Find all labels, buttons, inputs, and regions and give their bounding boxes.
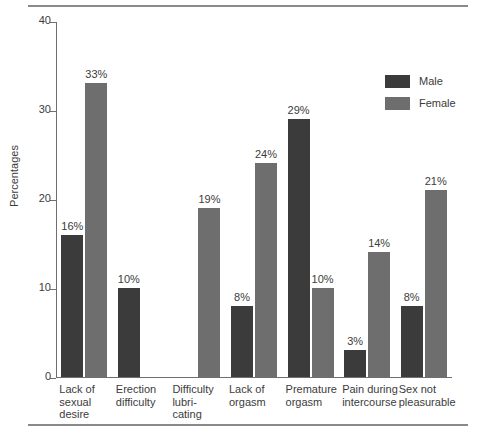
category-label: Pain during intercourse: [342, 383, 405, 408]
bar-male: 16%: [61, 235, 83, 377]
bar-value-label: 21%: [425, 175, 447, 187]
category-label: Premature orgasm: [286, 383, 349, 408]
category-label: Lack of orgasm: [229, 383, 292, 408]
bar-value-label: 24%: [255, 148, 277, 160]
bar-value-label: 33%: [85, 68, 107, 80]
category-label: Lack of sexual desire: [59, 383, 122, 421]
bar-male: 3%: [344, 350, 366, 377]
category-label-row: Lack of sexual desireErection difficulty…: [56, 383, 452, 425]
bar-value-label: 19%: [198, 193, 220, 205]
legend-item-male: Male: [385, 70, 456, 92]
x-axis-line: [56, 377, 452, 378]
category-label: Erection difficulty: [116, 383, 179, 408]
category-label: Sex not pleasurable: [399, 383, 462, 408]
category-label: Difficulty lubri- cating: [172, 383, 235, 421]
bar-female: 24%: [255, 163, 277, 377]
legend-label-female: Female: [419, 97, 456, 109]
y-tick-label: 40: [39, 14, 51, 26]
bar-value-label: 8%: [404, 291, 420, 303]
y-tick-label: 20: [39, 192, 51, 204]
bar-female: 14%: [368, 252, 390, 377]
bar-female: 19%: [198, 208, 220, 377]
bar-female: 33%: [85, 83, 107, 377]
y-tick-label: 30: [39, 103, 51, 115]
y-axis-label: Percentages: [8, 145, 20, 207]
bar-male: 29%: [288, 119, 310, 377]
bar-value-label: 14%: [368, 237, 390, 249]
chart-legend: Male Female: [385, 70, 456, 114]
bar-value-label: 29%: [288, 104, 310, 116]
legend-swatch-female-icon: [385, 97, 410, 110]
legend-swatch-male-icon: [385, 75, 410, 88]
bar-value-label: 16%: [61, 220, 83, 232]
bar-female: 10%: [312, 288, 334, 377]
bar-male: 8%: [401, 306, 423, 377]
bar-male: 8%: [231, 306, 253, 377]
y-tick-label: 10: [39, 281, 51, 293]
bar-value-label: 10%: [118, 273, 140, 285]
bar-value-label: 8%: [234, 291, 250, 303]
legend-item-female: Female: [385, 92, 456, 114]
bar-female: 21%: [425, 190, 447, 377]
y-axis-line: [56, 22, 57, 378]
bar-value-label: 3%: [347, 335, 363, 347]
bar-value-label: 10%: [312, 273, 334, 285]
chart-figure: Percentages 010203040 16%33%10%19%8%24%2…: [0, 0, 481, 436]
y-tick-label: 0: [45, 370, 51, 382]
bar-male: 10%: [118, 288, 140, 377]
top-divider-rule: [28, 5, 468, 7]
legend-label-male: Male: [419, 75, 443, 87]
